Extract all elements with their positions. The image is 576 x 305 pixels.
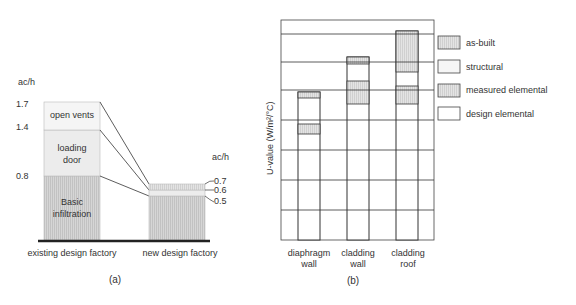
tick-0-6: 0.6 [214, 185, 227, 195]
legend-design-elemental: design elemental [466, 109, 534, 119]
tick-0-5: 0.5 [214, 196, 227, 206]
bar-existing-loading-door [44, 130, 100, 176]
chart-a: ac/h 1.7 1.4 0.8 open vents loading door… [16, 77, 229, 285]
label-open-vents: open vents [50, 110, 95, 120]
category-diaphragm-2: wall [300, 259, 317, 269]
label-door: door [63, 155, 81, 165]
category-cladding-roof: cladding [391, 248, 425, 258]
connector-basic [100, 176, 149, 196]
leader-0-7 [205, 181, 214, 184]
category-new: new design factory [142, 248, 218, 258]
category-cladding-wall-2: wall [349, 259, 366, 269]
chart-b: U-value (W/m²/°C) diaphragm wall claddin… [265, 20, 548, 286]
tick-1-4: 1.4 [16, 122, 29, 132]
connector-loading-door [100, 130, 149, 190]
leader-0-5 [205, 196, 214, 202]
tick-0-8: 0.8 [16, 171, 29, 181]
legend-b: as-built structural measured elemental d… [438, 36, 548, 120]
category-existing: existing design factory [27, 248, 117, 258]
bar-new-loading-door [149, 190, 205, 196]
y-axis-label-b: U-value (W/m²/°C) [265, 101, 275, 175]
category-cladding-roof-2: roof [400, 259, 416, 269]
category-diaphragm: diaphragm [288, 248, 331, 258]
bar-new-basic-infiltration [149, 196, 205, 240]
tick-1-7: 1.7 [16, 99, 29, 109]
label-loading: loading [57, 143, 86, 153]
bar-new-open-vents [149, 184, 205, 190]
legend-as-built: as-built [466, 38, 496, 48]
bar-existing-basic-infiltration [44, 176, 100, 240]
legend-structural: structural [466, 62, 503, 72]
bar-diaphragm-wall [298, 92, 320, 240]
category-cladding-wall: cladding [341, 248, 375, 258]
connector-open-vents [100, 102, 149, 184]
caption-b: (b) [347, 275, 359, 286]
label-infiltration: infiltration [53, 209, 92, 219]
figure: ac/h 1.7 1.4 0.8 open vents loading door… [0, 0, 576, 305]
legend-measured-elemental: measured elemental [466, 85, 548, 95]
label-basic: Basic [61, 197, 84, 207]
y-axis-unit-left: ac/h [18, 77, 35, 87]
bar-cladding-wall [347, 57, 369, 240]
legend-swatch-measured-elemental [438, 84, 460, 97]
legend-swatch-design-elemental [438, 107, 460, 120]
legend-swatch-structural [438, 60, 460, 73]
y-axis-unit-right: ac/h [212, 152, 229, 162]
legend-swatch-as-built [438, 36, 460, 49]
caption-a: (a) [109, 274, 121, 285]
